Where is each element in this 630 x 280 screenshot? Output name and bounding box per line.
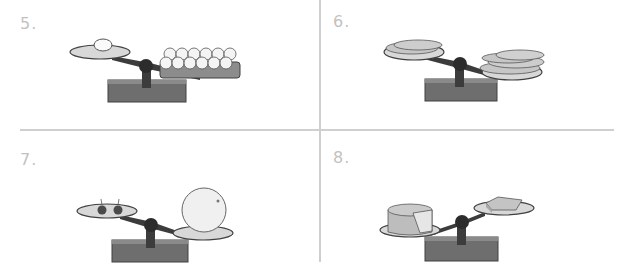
right-pan-cheese-wedge (474, 197, 534, 215)
panel-8-scale-illustration (0, 0, 630, 280)
left-pan-cheese-wheel (380, 204, 440, 237)
